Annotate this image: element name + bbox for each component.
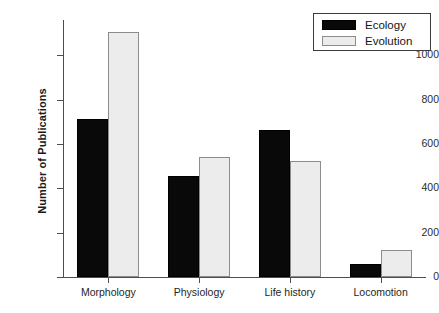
legend-item-ecology: Ecology bbox=[322, 18, 406, 32]
bar-ecology-morphology bbox=[77, 119, 108, 277]
bar-evolution-locomotion bbox=[381, 250, 412, 277]
legend-label-ecology: Ecology bbox=[365, 19, 406, 31]
bar-chart: Number of Publications 02004006008001000… bbox=[0, 0, 439, 313]
legend-label-evolution: Evolution bbox=[365, 35, 412, 47]
bar-ecology-physiology bbox=[168, 176, 199, 277]
bar-ecology-locomotion bbox=[350, 264, 381, 277]
bar-evolution-morphology bbox=[108, 32, 139, 277]
bar-evolution-physiology bbox=[199, 157, 230, 277]
bar-ecology-life-history bbox=[259, 130, 290, 277]
bar-evolution-life-history bbox=[290, 161, 321, 277]
legend-item-evolution: Evolution bbox=[322, 34, 412, 48]
legend-swatch-evolution bbox=[322, 36, 356, 46]
legend-swatch-ecology bbox=[322, 20, 356, 30]
legend: Ecology Evolution bbox=[313, 13, 431, 51]
